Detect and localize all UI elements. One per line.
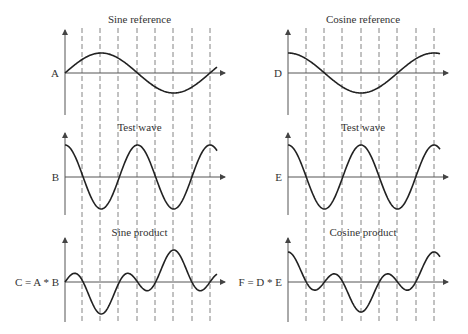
test-wave-right-label: E	[275, 171, 282, 183]
cosine-product-label: F = D * E	[239, 276, 283, 288]
sine-reference-title: Sine reference	[108, 13, 171, 25]
cosine-reference-label: D	[274, 67, 282, 79]
sine-product-label: C = A * B	[15, 276, 59, 288]
signal-correlation-diagram: Sine referenceACosine referenceDTest wav…	[0, 0, 468, 334]
test-wave-left-label: B	[52, 171, 59, 183]
waveforms	[65, 53, 440, 314]
test-wave-right-title: Test wave	[341, 121, 385, 133]
sine-product-title: Sine product	[112, 226, 168, 238]
cosine-product-title: Cosine product	[330, 226, 397, 238]
test-wave-left-title: Test wave	[117, 121, 161, 133]
cosine-reference-title: Cosine reference	[326, 13, 400, 25]
sine-reference-label: A	[51, 67, 59, 79]
